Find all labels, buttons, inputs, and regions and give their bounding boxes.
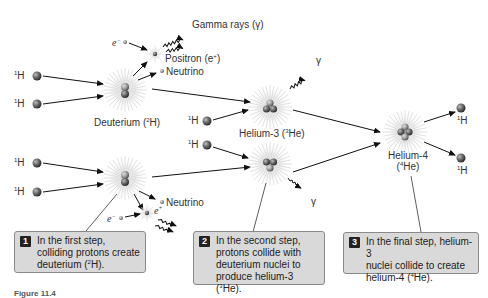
proton-1h-top-a <box>33 72 42 81</box>
positron-annihilation-top <box>146 45 164 63</box>
step-2-box: 2 In the second step, protons collide wi… <box>193 231 325 285</box>
label-gamma-he3-bottom: γ <box>311 196 316 207</box>
label-1h-out-a: 1H <box>457 115 468 126</box>
label-1h-bottom-b: 1H <box>14 186 25 197</box>
label-positron-bottom: e+ <box>154 205 163 216</box>
proton-1h-out-b <box>457 154 466 163</box>
helium4-nucleus <box>383 110 427 154</box>
label-1h-top-b: 1H <box>14 98 25 109</box>
neutrino-top <box>160 69 164 73</box>
step-3-number: 3 <box>349 237 360 248</box>
proton-1h-top-b <box>33 100 42 109</box>
label-1h-top-a: 1H <box>14 70 25 81</box>
label-deuterium: Deuterium (2H) <box>94 117 160 128</box>
proton-1h-he3-bottom <box>203 141 212 150</box>
label-helium4: Helium-4(4He) <box>388 150 428 172</box>
label-1h-he3-bottom: 1H <box>188 139 199 150</box>
deuterium-nucleus-bottom <box>103 156 147 200</box>
proton-1h-out-a <box>457 104 466 113</box>
label-gamma-he3-top: γ <box>316 55 321 66</box>
label-positron: Positron (e+) <box>165 53 220 64</box>
electron-top <box>123 40 127 44</box>
label-electron-top: e− <box>112 37 121 48</box>
helium3-nucleus-top <box>248 85 292 129</box>
label-neutrino-bottom: Neutrino <box>166 197 204 208</box>
label-1h-he3-top: 1H <box>188 115 199 126</box>
figure-caption: Figure 11.4 <box>14 289 56 298</box>
label-1h-bottom-a: 1H <box>14 157 25 168</box>
deuterium-nucleus-top <box>103 68 147 112</box>
label-1h-out-b: 1H <box>457 165 468 176</box>
step-1-box: 1 In the first step, colliding protons c… <box>14 231 146 273</box>
label-electron-bottom: e− <box>107 213 116 224</box>
step-3-box: 3 In the final step, helium-3 nuclei col… <box>343 232 479 274</box>
neutrino-bottom <box>160 200 164 204</box>
electron-bottom <box>119 216 123 220</box>
helium3-nucleus-bottom <box>248 142 292 186</box>
label-helium3: Helium-3 (3He) <box>239 128 305 139</box>
label-gamma-rays: Gamma rays (γ) <box>192 19 264 30</box>
label-neutrino-top: Neutrino <box>166 66 204 77</box>
proton-1h-he3-top <box>203 117 212 126</box>
proton-1h-bottom-a <box>33 159 42 168</box>
step-2-number: 2 <box>199 236 210 247</box>
step-1-number: 1 <box>20 236 31 247</box>
proton-1h-bottom-b <box>33 188 42 197</box>
